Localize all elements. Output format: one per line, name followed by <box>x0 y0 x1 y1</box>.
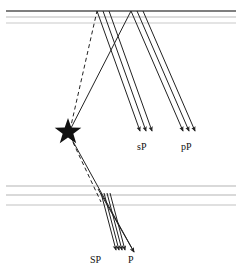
sp-reflected-bundle <box>97 11 152 131</box>
pp-reflected-bundle-ray-1 <box>131 11 183 131</box>
sp-reflected-bundle-ray-1 <box>97 11 140 131</box>
upgoing-p-leg <box>70 11 131 130</box>
label-SP: SP <box>90 254 102 265</box>
earthquake-hypocenter-star <box>55 118 82 143</box>
free-surface-lines <box>6 11 236 23</box>
pp-reflected-bundle-ray-2 <box>137 11 189 131</box>
downgoing-p-leg <box>70 136 134 252</box>
pp-reflected-bundle-ray-3 <box>143 11 195 131</box>
phase-label-group: sPpPSPP <box>90 141 192 265</box>
sp-reflected-bundle-ray-2 <box>103 11 146 131</box>
downgoing-s-leg <box>70 136 101 202</box>
label-sP: sP <box>137 141 147 152</box>
ray-bundle-group <box>97 11 195 252</box>
label-P: P <box>128 254 134 265</box>
source-ray-legs <box>70 11 134 252</box>
deep-interface-lines <box>6 186 236 205</box>
earthquake-hypocenter-star <box>55 118 82 143</box>
ray-diagram-canvas: sPpPSPP <box>0 0 242 274</box>
sp-depth-bundle-ray-1 <box>101 193 116 250</box>
pp-reflected-bundle <box>131 11 195 131</box>
sp-depth-bundle-ray-3 <box>107 193 122 250</box>
seismic-ray-path-figure: sPpPSPP <box>0 0 242 274</box>
sp-reflected-bundle-ray-3 <box>109 11 152 131</box>
label-pP: pP <box>181 141 192 152</box>
upgoing-s-leg <box>70 11 97 130</box>
